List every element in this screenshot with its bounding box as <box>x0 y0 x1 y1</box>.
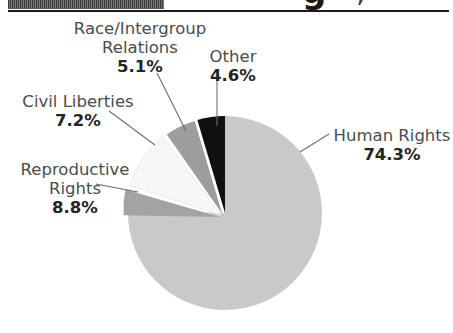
pie-slices <box>123 116 322 310</box>
slice-label-other-line1: Other <box>210 47 257 66</box>
slice-label-reproductive-rights-line2: Rights <box>49 179 101 198</box>
slice-label-reproductive-rights-line1: Reproductive <box>21 160 130 179</box>
slice-value-reproductive-rights: 8.8% <box>4 198 146 217</box>
slice-label-race-intergroup-line2: Relations <box>102 38 178 57</box>
slice-value-human-rights: 74.3% <box>332 145 452 164</box>
slice-value-other: 4.6% <box>193 66 273 85</box>
leader-line-human-rights <box>300 134 329 152</box>
slice-label-civil-liberties-line1: Civil Liberties <box>22 92 133 111</box>
slice-label-reproductive-rights: Reproductive Rights 8.8% <box>4 160 146 217</box>
chart-page: g , Race/Intergroup Relations 5.1 <box>0 0 453 333</box>
slice-label-human-rights: Human Rights 74.3% <box>332 126 452 164</box>
leader-line-race-intergroup <box>157 73 186 131</box>
slice-label-other: Other 4.6% <box>193 47 273 85</box>
slice-label-civil-liberties: Civil Liberties 7.2% <box>4 92 152 130</box>
slice-label-race-intergroup-line1: Race/Intergroup <box>74 19 206 38</box>
slice-label-human-rights-line1: Human Rights <box>334 126 451 145</box>
slice-value-civil-liberties: 7.2% <box>4 111 152 130</box>
